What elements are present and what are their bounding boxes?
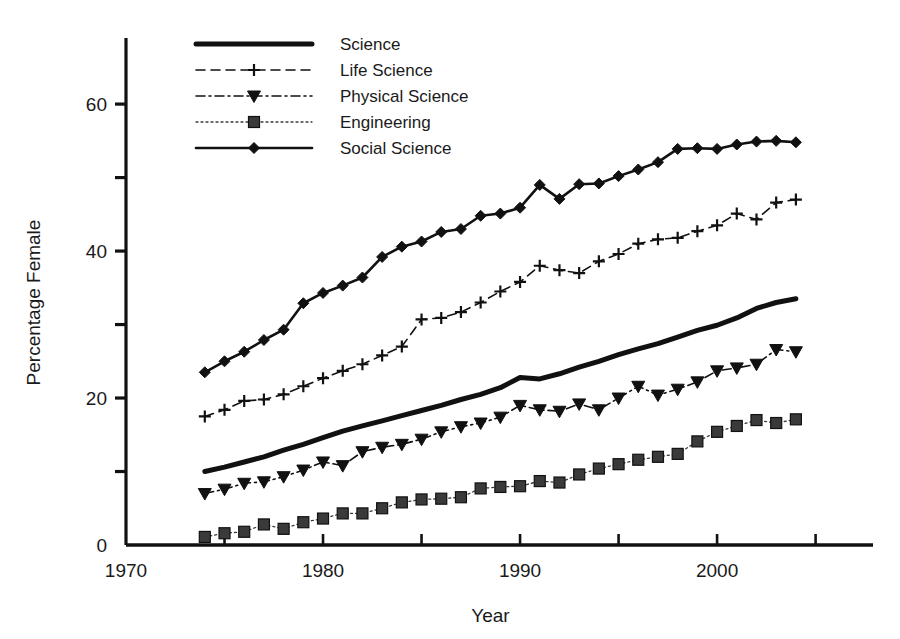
data-point-marker — [249, 117, 260, 128]
data-point-marker — [416, 494, 427, 505]
legend-item-science[interactable]: Science — [196, 35, 400, 54]
data-point-marker — [396, 241, 407, 252]
data-point-marker — [632, 381, 645, 393]
legend-label: Social Science — [340, 139, 452, 158]
data-point-marker — [317, 372, 329, 384]
data-point-marker — [337, 365, 349, 377]
data-point-marker — [199, 410, 211, 422]
data-point-marker — [651, 390, 664, 402]
data-point-marker — [652, 451, 663, 462]
series-line — [205, 141, 796, 372]
data-point-marker — [534, 476, 545, 487]
data-point-marker — [750, 213, 762, 225]
data-point-marker — [691, 377, 704, 389]
data-point-marker — [495, 208, 506, 219]
y-tick-label: 40 — [86, 241, 107, 262]
data-point-marker — [396, 341, 408, 353]
data-point-marker — [613, 248, 625, 260]
data-point-marker — [593, 255, 605, 267]
data-point-marker — [553, 406, 566, 418]
data-point-marker — [337, 508, 348, 519]
data-point-marker — [633, 164, 644, 175]
series-line — [205, 419, 796, 537]
data-point-marker — [613, 459, 624, 470]
data-point-marker — [632, 238, 644, 250]
data-point-marker — [554, 477, 565, 488]
data-point-marker — [553, 264, 565, 276]
data-point-marker — [239, 346, 250, 357]
data-point-marker — [672, 448, 683, 459]
x-tick-label: 1980 — [302, 560, 344, 581]
data-point-marker — [318, 287, 329, 298]
legend-item-life-science[interactable]: Life Science — [196, 61, 433, 80]
data-point-marker — [692, 143, 703, 154]
data-point-marker — [534, 260, 546, 272]
series-line — [205, 299, 796, 472]
legend-group: ScienceLife SciencePhysical ScienceEngin… — [196, 35, 469, 158]
data-point-marker — [454, 422, 467, 434]
legend-item-engineering[interactable]: Engineering — [196, 113, 431, 132]
data-point-marker — [691, 225, 703, 237]
x-tick-label: 2000 — [696, 560, 738, 581]
data-point-marker — [257, 477, 270, 489]
data-point-marker — [278, 388, 290, 400]
data-point-marker — [356, 447, 369, 459]
data-point-marker — [298, 517, 309, 528]
data-point-marker — [495, 481, 506, 492]
data-point-marker — [770, 197, 782, 209]
data-point-marker — [475, 483, 486, 494]
data-point-marker — [258, 334, 269, 345]
data-point-marker — [494, 285, 506, 297]
data-point-marker — [416, 236, 427, 247]
data-point-marker — [633, 454, 644, 465]
data-point-marker — [377, 503, 388, 514]
data-point-marker — [376, 442, 389, 454]
data-point-marker — [278, 523, 289, 534]
data-point-marker — [751, 415, 762, 426]
legend-item-physical-science[interactable]: Physical Science — [196, 87, 469, 106]
data-point-marker — [771, 418, 782, 429]
data-point-marker — [592, 405, 605, 417]
data-point-marker — [436, 226, 447, 237]
data-point-marker — [731, 420, 742, 431]
legend-label: Science — [340, 35, 400, 54]
data-point-marker — [771, 135, 782, 146]
data-point-marker — [199, 367, 210, 378]
data-point-marker — [436, 493, 447, 504]
series-physical-science — [198, 345, 802, 501]
axes-group — [115, 38, 873, 545]
data-point-marker — [712, 426, 723, 437]
data-point-marker — [356, 358, 368, 370]
data-point-marker — [238, 395, 250, 407]
data-point-marker — [712, 143, 723, 154]
data-point-marker — [751, 136, 762, 147]
data-point-marker — [318, 513, 329, 524]
data-point-marker — [376, 349, 388, 361]
data-point-marker — [357, 508, 368, 519]
data-point-marker — [455, 492, 466, 503]
x-tick-label: 1970 — [105, 560, 147, 581]
legend-label: Physical Science — [340, 87, 469, 106]
legend-item-social-science[interactable]: Social Science — [196, 139, 452, 158]
data-point-marker — [435, 427, 448, 439]
data-point-marker — [219, 404, 231, 416]
data-point-marker — [593, 463, 604, 474]
data-point-marker — [652, 233, 664, 245]
legend-label: Engineering — [340, 113, 431, 132]
data-point-marker — [238, 478, 251, 490]
data-point-marker — [337, 280, 348, 291]
series-science — [205, 299, 796, 472]
data-point-marker — [258, 394, 270, 406]
data-point-marker — [515, 481, 526, 492]
data-point-marker — [730, 363, 743, 375]
series-line — [205, 200, 796, 417]
data-point-marker — [711, 366, 724, 378]
y-tick-label: 60 — [86, 94, 107, 115]
series-group — [198, 135, 802, 542]
data-point-marker — [672, 232, 684, 244]
data-point-marker — [593, 178, 604, 189]
data-point-marker — [258, 519, 269, 530]
data-point-marker — [475, 297, 487, 309]
data-point-marker — [613, 171, 624, 182]
data-point-marker — [612, 393, 625, 405]
